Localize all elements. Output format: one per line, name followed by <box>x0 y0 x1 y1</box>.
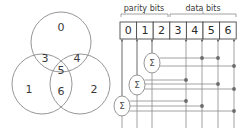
venn-diagram: 0 3 4 5 1 6 2 <box>12 12 110 114</box>
bit-line-tap-6 <box>233 40 235 42</box>
bit-line-tap-3 <box>185 40 187 42</box>
bit-box-label-1: 1 <box>141 24 148 37</box>
bit-box-label-5: 5 <box>208 24 215 37</box>
junction-dot-bit-5 <box>216 56 220 60</box>
junction-dot-bit-6 <box>232 109 236 113</box>
venn-region-label-1: 1 <box>26 83 33 96</box>
venn-region-label-2: 2 <box>91 83 98 96</box>
bit-line-tap-5 <box>217 40 219 42</box>
junction-dot-bit-3 <box>184 99 188 103</box>
junction-dot-bit-6 <box>232 64 236 68</box>
venn-region-label-3: 3 <box>42 52 49 65</box>
bit-box-label-0: 0 <box>125 24 132 37</box>
group-label-data-bits: data bits <box>185 4 220 13</box>
junction-dot-bit-4 <box>200 104 204 108</box>
venn-region-label-4: 4 <box>74 52 81 65</box>
junction-dot-bit-6 <box>232 87 236 91</box>
venn-region-label-6: 6 <box>58 85 65 98</box>
junction-dots-group <box>184 56 236 113</box>
group-label-parity-bits: parity bits <box>124 4 165 13</box>
venn-region-label-0: 0 <box>58 21 65 34</box>
bit-box-label-2: 2 <box>158 24 165 37</box>
figure-root: 0 3 4 5 1 6 2 parity bits data bits 0123… <box>0 0 241 128</box>
sum-bottom-symbol: Σ <box>119 101 125 111</box>
sum-middle-symbol: Σ <box>134 80 140 90</box>
bit-line-tap-4 <box>201 40 203 42</box>
bit-box-label-3: 3 <box>175 24 182 37</box>
figure-svg: 0 3 4 5 1 6 2 parity bits data bits 0123… <box>0 0 241 128</box>
parity-circuit: parity bits data bits 0123456 ΣΣΣ <box>114 4 236 129</box>
sum-top-symbol: Σ <box>149 58 155 68</box>
bit-box-label-6: 6 <box>224 24 231 37</box>
bit-box-label-4: 4 <box>191 24 198 37</box>
bit-box-row: 0123456 <box>120 22 236 39</box>
junction-dot-bit-4 <box>200 56 204 60</box>
junction-dot-bit-5 <box>216 82 220 86</box>
junction-dot-bit-3 <box>184 78 188 82</box>
venn-region-label-5: 5 <box>58 64 65 77</box>
